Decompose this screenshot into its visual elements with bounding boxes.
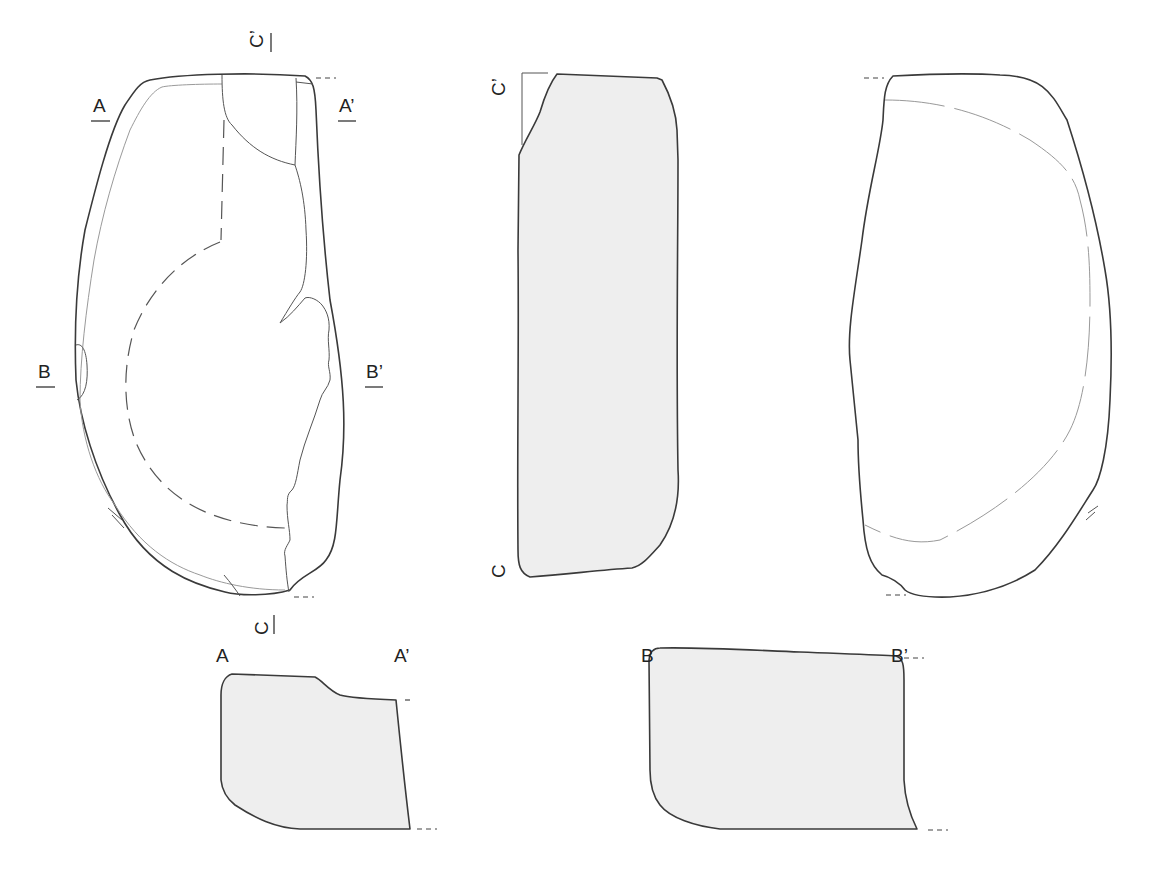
section-b-label-b: B	[641, 645, 654, 666]
section-a-label-a: A	[216, 645, 229, 666]
front-rim-line-lower	[80, 400, 285, 590]
label-a-prime: A’	[339, 95, 354, 116]
label-c-profile: C	[488, 564, 509, 578]
section-b-shape	[649, 648, 917, 829]
profile-shape	[518, 74, 679, 577]
back-notch	[1086, 506, 1098, 520]
label-c-prime-profile: C’	[488, 78, 509, 96]
back-outline	[849, 74, 1111, 597]
back-dashed-arc	[865, 100, 1090, 542]
label-b-prime: B’	[366, 361, 383, 382]
section-b-label-b-prime: B’	[891, 645, 908, 666]
front-dashed-vertical	[221, 120, 224, 240]
section-a-shape	[221, 674, 410, 829]
front-notch-lower	[108, 508, 240, 596]
front-dashed-arc	[126, 242, 285, 528]
section-a: A A’	[216, 645, 437, 829]
front-rim-line	[80, 84, 222, 400]
artifact-drawing: A A’ B B’ C’ C C’ C A A’ B B’	[0, 0, 1149, 872]
section-a-label-a-prime: A’	[394, 645, 409, 666]
front-outline	[75, 74, 344, 595]
back-view	[849, 74, 1111, 597]
section-b: B B’	[641, 645, 948, 830]
front-top-facet	[222, 75, 297, 165]
label-c-bottom: C	[251, 621, 272, 635]
front-top-facet-edge	[296, 82, 313, 84]
profile-section: C’ C	[488, 73, 678, 578]
front-labels: A A’ B B’ C’ C	[36, 30, 383, 635]
front-view	[75, 74, 344, 597]
label-b: B	[38, 361, 51, 382]
label-a: A	[93, 95, 106, 116]
label-c-prime-top: C’	[246, 30, 267, 48]
